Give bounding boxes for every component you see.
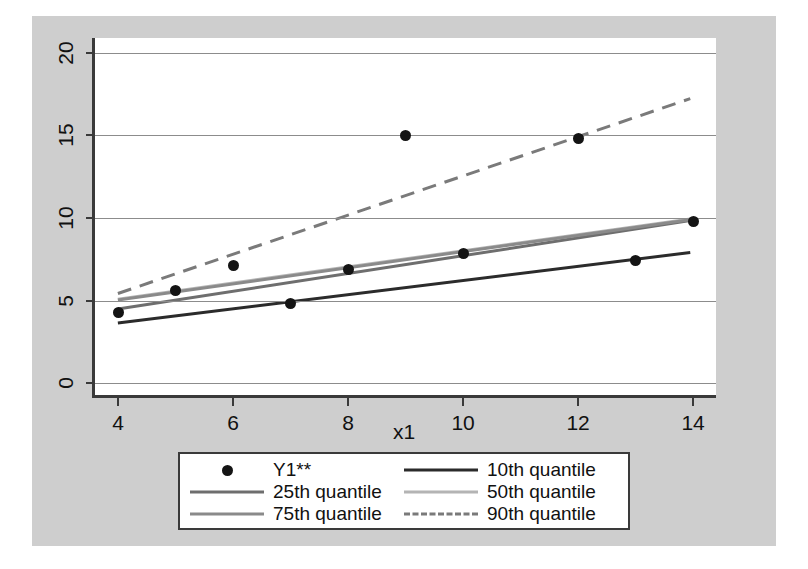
- legend-label-10th: 10th quantile: [487, 459, 596, 481]
- legend-entry-75th: 75th quantile: [190, 503, 404, 525]
- legend-label-y1: Y1**: [273, 459, 311, 481]
- x-axis-title: x1: [92, 420, 716, 444]
- gridline-y: [95, 53, 716, 54]
- plot-inner: [95, 38, 716, 395]
- data-point-marker: [458, 248, 469, 259]
- data-point-marker: [343, 264, 354, 275]
- data-point-marker: [113, 307, 124, 318]
- y-axis-tick: [86, 382, 95, 384]
- legend-label-75th: 75th quantile: [273, 503, 382, 525]
- legend-entry-90th: 90th quantile: [404, 503, 618, 525]
- legend-entry-10th: 10th quantile: [404, 459, 618, 481]
- x-axis-tick: [232, 397, 234, 406]
- x-axis-tick: [117, 397, 119, 406]
- x-axis-tick: [462, 397, 464, 406]
- x-axis-tick: [347, 397, 349, 406]
- y-axis-tick-label: 5: [55, 284, 77, 318]
- y-axis-tick: [86, 217, 95, 219]
- y-axis-tick-label: 15: [55, 118, 77, 152]
- legend-key-line-75th-icon: [190, 507, 264, 521]
- data-point-marker: [400, 130, 411, 141]
- legend-key-line-90th-icon: [404, 507, 478, 521]
- series-line-25th-quantile: [118, 221, 690, 309]
- y-axis-tick: [86, 134, 95, 136]
- legend-grid: Y1** 10th quantile 25th quantile 50th qu…: [190, 459, 618, 523]
- gridline-y: [95, 301, 716, 302]
- legend-entry-25th: 25th quantile: [190, 481, 404, 503]
- x-axis-tick: [692, 397, 694, 406]
- legend-label-90th: 90th quantile: [487, 503, 596, 525]
- legend-key-marker-icon: [190, 463, 264, 477]
- legend-label-25th: 25th quantile: [273, 481, 382, 503]
- data-point-marker: [688, 216, 699, 227]
- y-axis-tick-label: 20: [55, 36, 77, 70]
- gridline-y: [95, 218, 716, 219]
- data-point-marker: [228, 260, 239, 271]
- chart-legend: Y1** 10th quantile 25th quantile 50th qu…: [178, 452, 630, 530]
- legend-key-line-50th-icon: [404, 485, 478, 499]
- legend-key-line-10th-icon: [404, 463, 478, 477]
- plot-area: 05101520468101214: [92, 38, 716, 398]
- gridline-y: [95, 383, 716, 384]
- legend-label-50th: 50th quantile: [487, 481, 596, 503]
- legend-entry-50th: 50th quantile: [404, 481, 618, 503]
- y-axis-tick: [86, 52, 95, 54]
- data-point-marker: [573, 133, 584, 144]
- x-axis-tick: [577, 397, 579, 406]
- y-axis-tick-label: 0: [55, 366, 77, 400]
- legend-key-line-25th-icon: [190, 485, 264, 499]
- y-axis-tick-label: 10: [55, 201, 77, 235]
- figure-background: 05101520468101214 x1 Y1** 10th quantile: [32, 16, 776, 546]
- quantile-regression-plot: [95, 38, 716, 395]
- legend-entry-y1: Y1**: [190, 459, 404, 481]
- y-axis-tick: [86, 300, 95, 302]
